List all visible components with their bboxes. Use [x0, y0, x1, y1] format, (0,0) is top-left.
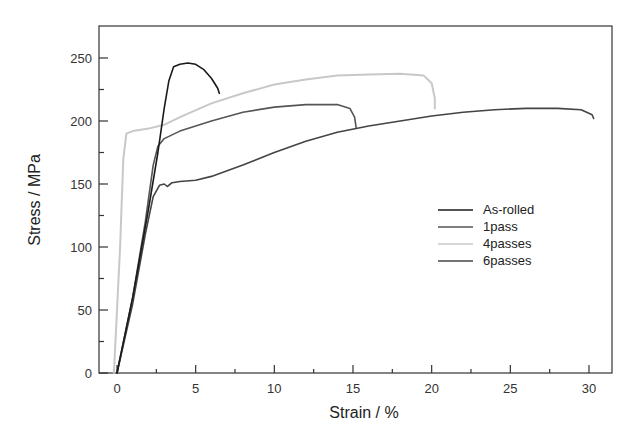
- y-axis-title: Stress / MPa: [26, 154, 43, 246]
- x-tick-label: 30: [582, 381, 596, 396]
- plot-frame: [99, 26, 612, 373]
- legend: As-rolled 1pass 4passes 6passes: [438, 202, 534, 268]
- x-axis-title: Strain / %: [329, 404, 398, 421]
- series-1pass: [117, 105, 356, 373]
- y-axis-ticks: 050100150200250: [70, 51, 108, 381]
- legend-label-6passes: 6passes: [483, 253, 532, 268]
- legend-label-1pass: 1pass: [483, 219, 518, 234]
- y-tick-label: 50: [78, 303, 92, 318]
- series-as-rolled: [117, 63, 219, 373]
- x-tick-label: 15: [346, 381, 360, 396]
- data-series: [114, 63, 594, 373]
- legend-label-4passes: 4passes: [483, 236, 532, 251]
- x-axis-ticks: 051015202530: [113, 365, 596, 396]
- y-tick-label: 250: [70, 51, 92, 66]
- x-tick-label: 25: [503, 381, 517, 396]
- y-tick-label: 200: [70, 114, 92, 129]
- y-tick-label: 150: [70, 177, 92, 192]
- y-tick-label: 0: [85, 366, 92, 381]
- x-tick-label: 0: [113, 381, 120, 396]
- x-tick-label: 10: [267, 381, 281, 396]
- stress-strain-chart: 050100150200250 051015202530 Strain / % …: [0, 0, 642, 444]
- y-tick-label: 100: [70, 240, 92, 255]
- x-tick-label: 5: [192, 381, 199, 396]
- x-tick-label: 20: [424, 381, 438, 396]
- legend-label-as-rolled: As-rolled: [483, 202, 534, 217]
